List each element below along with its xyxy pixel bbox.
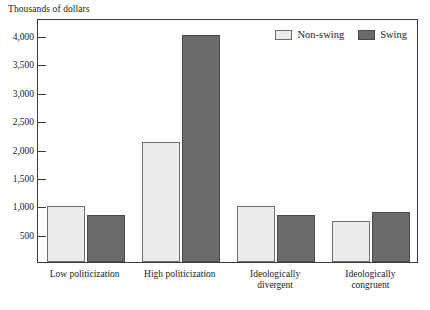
x-axis-category-label-line: Ideologically (250, 269, 300, 280)
bars-layer (38, 20, 417, 262)
bar (277, 215, 315, 262)
y-axis-tick-label: 500 (20, 231, 34, 241)
x-axis-category-label: Low politicization (50, 269, 120, 280)
x-axis-category-label-line: High politicization (144, 269, 216, 280)
x-axis-category-label-line: Ideologically (345, 269, 395, 280)
legend-swatch-icon (358, 30, 375, 40)
x-axis-category-label: Ideologicallydivergent (250, 269, 300, 290)
bar (372, 212, 410, 263)
y-axis-tick-label: 1,500 (13, 174, 34, 184)
bar (332, 221, 370, 262)
y-axis-title: Thousands of dollars (8, 4, 90, 14)
y-axis-tick-label: 3,500 (13, 60, 34, 70)
x-axis-category-label: High politicization (144, 269, 216, 280)
bar (237, 206, 275, 262)
x-axis-category-label-line: congruent (345, 280, 395, 291)
y-axis-tick-label: 2,500 (13, 117, 34, 127)
bar (87, 215, 125, 262)
chart-legend: Non-swingSwing (275, 29, 407, 40)
plot-area: 5001,0001,5002,0002,5003,0003,5004,000 N… (37, 19, 418, 263)
legend-item[interactable]: Swing (358, 29, 407, 40)
bar (47, 206, 85, 262)
x-axis-category-label-line: Low politicization (50, 269, 120, 280)
y-axis-tick-label: 4,000 (13, 32, 34, 42)
legend-item[interactable]: Non-swing (275, 29, 344, 40)
y-axis-tick-label: 3,000 (13, 89, 34, 99)
y-axis-tick-label: 2,000 (13, 146, 34, 156)
y-axis-tick-label: 1,000 (13, 202, 34, 212)
x-axis-category-label: Ideologicallycongruent (345, 269, 395, 290)
legend-swatch-icon (275, 30, 292, 40)
x-axis-category-label-line: divergent (250, 280, 300, 291)
bar (182, 35, 220, 262)
legend-label: Non-swing (297, 29, 344, 40)
legend-label: Swing (380, 29, 407, 40)
bar-chart: Thousands of dollars 5001,0001,5002,0002… (0, 0, 430, 310)
bar (142, 142, 180, 262)
